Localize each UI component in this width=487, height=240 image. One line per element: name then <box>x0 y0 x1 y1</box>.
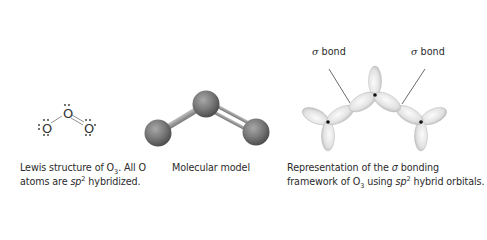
caption-text: using <box>364 176 395 187</box>
orbital-set-center <box>369 66 382 96</box>
caption-text: . All O <box>118 162 146 173</box>
caption-text: Lewis structure of O <box>20 162 114 173</box>
oxygen-left: O <box>42 121 52 136</box>
oxygen-center: O <box>63 106 73 121</box>
caption-text: Molecular model <box>172 161 250 175</box>
caption-line-2: atoms are sp2 hybridized. <box>20 175 146 189</box>
caption-molecular-model: Molecular model <box>172 161 250 175</box>
sigma-bond-left <box>323 88 379 129</box>
sigma-bond-label-right: σ bond <box>411 46 445 57</box>
caption-line-1: Representation of the σ bonding <box>287 161 484 175</box>
orbital-set-left <box>300 104 335 151</box>
caption-orbital-framework: Representation of the σ bonding framewor… <box>287 161 484 189</box>
oxygen-sphere-right <box>243 119 270 146</box>
sigma-label-text: bond <box>418 46 445 57</box>
single-bond <box>51 116 62 123</box>
double-bond-line-1 <box>72 115 84 122</box>
nucleus-right <box>419 120 423 124</box>
sigma-bond-right <box>370 88 426 129</box>
caption-text: atoms are <box>20 176 70 187</box>
italic-sp: sp <box>70 176 81 187</box>
nucleus-center <box>373 93 377 97</box>
oxygen-sphere-left <box>145 120 172 147</box>
nucleus-left <box>326 120 330 124</box>
orbital-set-right <box>415 104 450 151</box>
sigma-bond-label-left: σ bond <box>312 46 346 57</box>
caption-line-2: framework of O3 using sp2 hybrid orbital… <box>287 175 484 189</box>
lewis-structure: O O O <box>38 104 96 136</box>
caption-line-1: Lewis structure of O3. All O <box>20 161 146 175</box>
caption-text: bonding <box>398 162 439 173</box>
sigma-leader-right <box>402 69 425 104</box>
oxygen-right: O <box>84 121 94 136</box>
sp2-orbital-framework <box>300 66 450 151</box>
sigma-leader-left <box>329 69 350 103</box>
sigma-label-text: bond <box>319 46 346 57</box>
caption-text: hybrid orbitals. <box>410 176 484 187</box>
caption-lewis-structure: Lewis structure of O3. All O atoms are s… <box>20 161 146 189</box>
caption-text: hybridized. <box>85 176 140 187</box>
molecular-model <box>145 91 270 147</box>
italic-sp: sp <box>396 176 407 187</box>
caption-text: Representation of the <box>287 162 392 173</box>
oxygen-sphere-center <box>193 91 220 118</box>
caption-text: framework of O <box>287 176 360 187</box>
